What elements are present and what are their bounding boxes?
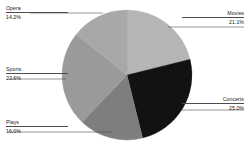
slice-label-plays-name: Plays <box>6 119 68 126</box>
slice-label-concerts: Concerts 25.0% <box>182 96 244 112</box>
slice-label-opera-percent: 14.2% <box>6 14 68 21</box>
slice-label-movies: Movies 21.1% <box>182 10 244 26</box>
slice-label-concerts-percent: 25.0% <box>182 105 244 112</box>
slice-label-sports-name: Sports <box>6 66 68 73</box>
slice-label-movies-percent: 21.1% <box>182 19 244 26</box>
pie-slice-group <box>62 10 192 140</box>
slice-label-concerts-name: Concerts <box>182 96 244 103</box>
slice-label-opera: Opera 14.2% <box>6 5 68 21</box>
slice-label-movies-name: Movies <box>182 10 244 17</box>
slice-label-plays-percent: 16.0% <box>6 128 68 135</box>
slice-label-sports-percent: 23.6% <box>6 75 68 82</box>
slice-label-sports: Sports 23.6% <box>6 66 68 82</box>
slice-label-opera-name: Opera <box>6 5 68 12</box>
pie-chart-figure: Opera 14.2% Movies 21.1% Concerts 25.0% … <box>0 0 250 148</box>
slice-label-plays: Plays 16.0% <box>6 119 68 135</box>
